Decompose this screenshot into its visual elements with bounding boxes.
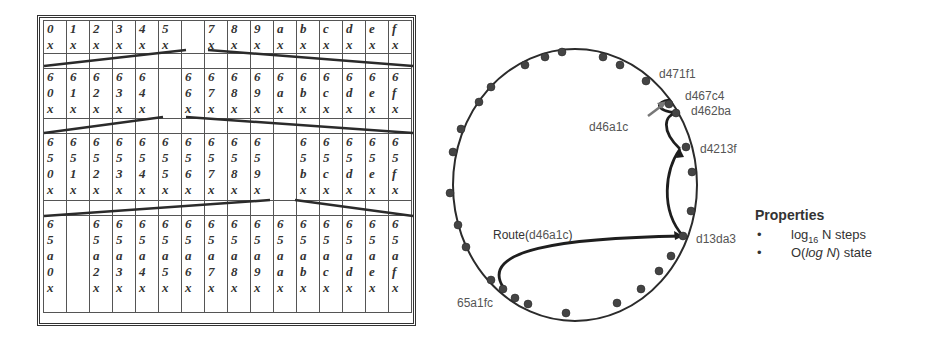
table-gap-cell bbox=[320, 119, 343, 134]
node-label-d467c4: d467c4 bbox=[685, 89, 724, 103]
cell-digit: 3 bbox=[116, 85, 135, 101]
table-cell: fx bbox=[389, 21, 412, 54]
cell-digit: 2 bbox=[93, 264, 112, 280]
property-item-state: • O(log N) state bbox=[755, 244, 872, 262]
cell-digit: c bbox=[323, 264, 342, 280]
cell-digit: 6 bbox=[185, 264, 204, 280]
table-cell: 6dx bbox=[343, 69, 366, 119]
cell-digit: 5 bbox=[323, 150, 342, 166]
cell-digit: 6 bbox=[254, 69, 273, 85]
cell-digit: 9 bbox=[254, 166, 273, 182]
node-label-65a1fc: 65a1fc bbox=[457, 296, 493, 310]
table-gap-cell bbox=[274, 54, 297, 69]
table-gap-cell bbox=[389, 201, 412, 216]
cell-digit: 6 bbox=[231, 134, 250, 150]
cell-digit: x bbox=[346, 37, 365, 53]
cell-digit: x bbox=[116, 280, 135, 296]
cell-digit: x bbox=[369, 101, 388, 117]
cell-digit: x bbox=[116, 101, 135, 117]
table-gap-cell bbox=[366, 119, 389, 134]
table-cell: 61x bbox=[67, 69, 90, 119]
table-gap-cell bbox=[389, 119, 412, 134]
cell-digit: 6 bbox=[116, 134, 135, 150]
cell-digit: 9 bbox=[254, 264, 273, 280]
table-cell: 655x bbox=[159, 134, 182, 201]
table-cell: 65aex bbox=[366, 216, 389, 313]
cell-digit: 5 bbox=[231, 232, 250, 248]
cell-digit: 5 bbox=[208, 150, 227, 166]
cell-digit: 5 bbox=[300, 232, 319, 248]
cell-digit: a bbox=[277, 85, 296, 101]
table-cell: 65a8x bbox=[228, 216, 251, 313]
cell-digit: 5 bbox=[300, 150, 319, 166]
cell-digit: f bbox=[392, 85, 411, 101]
cell-digit: x bbox=[254, 101, 273, 117]
table-gap-cell bbox=[136, 119, 159, 134]
table-row-level-3: 65a0x65a2x65a3x65a4x65a5x65a6x65a7x65a8x… bbox=[44, 216, 412, 313]
table-cell: 65a4x bbox=[136, 216, 159, 313]
cell-digit: 5 bbox=[185, 232, 204, 248]
cell-digit: a bbox=[231, 248, 250, 264]
cell-digit: 5 bbox=[254, 232, 273, 248]
node-label-d13da3: d13da3 bbox=[696, 232, 736, 246]
cell-digit: 6 bbox=[70, 134, 89, 150]
cell-digit: 3 bbox=[116, 21, 135, 37]
cell-digit: x bbox=[139, 182, 158, 198]
table-cell: 3x bbox=[113, 21, 136, 54]
cell-digit: 5 bbox=[346, 232, 365, 248]
table-gap-row bbox=[44, 54, 412, 69]
cell-digit: 6 bbox=[93, 134, 112, 150]
table-gap-cell bbox=[90, 54, 113, 69]
cell-digit: x bbox=[162, 37, 181, 53]
cell-digit: x bbox=[162, 182, 181, 198]
table-gap-cell bbox=[228, 119, 251, 134]
table-gap-cell bbox=[205, 54, 228, 69]
cell-digit: x bbox=[231, 280, 250, 296]
table-cell: 5x bbox=[159, 21, 182, 54]
table-cell: 652x bbox=[90, 134, 113, 201]
cell-digit: x bbox=[208, 101, 227, 117]
table-gap-cell bbox=[274, 119, 297, 134]
cell-digit: 6 bbox=[369, 134, 388, 150]
cell-digit: x bbox=[277, 280, 296, 296]
table-gap-cell bbox=[251, 201, 274, 216]
cell-digit: x bbox=[185, 280, 204, 296]
bullet-icon: • bbox=[757, 226, 762, 244]
cell-digit: 6 bbox=[323, 69, 342, 85]
table-cell-empty bbox=[159, 69, 182, 119]
table-cell: 65fx bbox=[389, 134, 412, 201]
cell-digit: d bbox=[346, 166, 365, 182]
route-arrowheads bbox=[674, 149, 684, 240]
cell-digit: a bbox=[116, 248, 135, 264]
table-gap-cell bbox=[320, 54, 343, 69]
cell-digit: 5 bbox=[392, 150, 411, 166]
route-label-suffix: ) bbox=[568, 228, 572, 242]
table-cell-empty bbox=[182, 21, 205, 54]
cell-digit: 5 bbox=[208, 232, 227, 248]
cell-digit: x bbox=[70, 101, 89, 117]
cell-digit: a bbox=[47, 248, 66, 264]
cell-digit: 5 bbox=[139, 232, 158, 248]
cell-digit: 7 bbox=[208, 264, 227, 280]
cell-digit: a bbox=[139, 248, 158, 264]
cell-digit: x bbox=[185, 182, 204, 198]
cell-digit: 6 bbox=[277, 69, 296, 85]
cell-digit: x bbox=[254, 37, 273, 53]
cell-digit: 5 bbox=[369, 150, 388, 166]
table-cell: 65acx bbox=[320, 216, 343, 313]
cell-digit: 6 bbox=[231, 69, 250, 85]
cell-digit: 6 bbox=[300, 69, 319, 85]
cell-digit: 6 bbox=[208, 134, 227, 150]
table-cell: 4x bbox=[136, 21, 159, 54]
cell-digit: 4 bbox=[139, 264, 158, 280]
cell-digit: 5 bbox=[47, 232, 66, 248]
cell-digit: 6 bbox=[369, 69, 388, 85]
cell-digit: x bbox=[47, 280, 66, 296]
cell-digit: 6 bbox=[300, 134, 319, 150]
table-cell: 65cx bbox=[320, 134, 343, 201]
table-cell: ex bbox=[366, 21, 389, 54]
cell-digit: x bbox=[300, 280, 319, 296]
table-cell: 2x bbox=[90, 21, 113, 54]
property-text: N steps bbox=[818, 227, 866, 242]
cell-digit: 7 bbox=[208, 21, 227, 37]
